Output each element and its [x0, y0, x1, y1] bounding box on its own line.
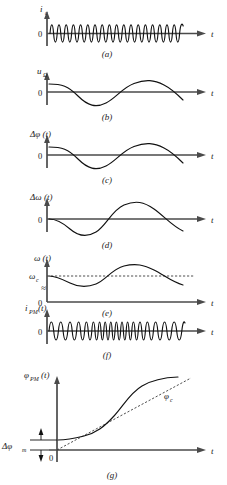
panel-g-delta-phi-upper-arrowhead	[39, 428, 44, 435]
panel-b-modulating-waveform	[49, 81, 183, 106]
panel-g: φ PM (t) Δφ m φ c 0 t (g)	[1, 370, 214, 480]
panel-g-y-arrowhead	[54, 376, 60, 384]
panel-c-y-label: Δφ (t)	[29, 129, 51, 139]
panel-g-y-label-sub: PM	[29, 376, 40, 382]
panel-c-phase-deviation-waveform	[49, 144, 183, 169]
panel-b: u Ω 0 t (b)	[37, 66, 214, 122]
panel-g-phi-c-label: φ	[164, 391, 169, 401]
panel-d-caption: (d)	[102, 240, 113, 250]
panel-c: Δφ (t) 0 t (c)	[29, 129, 214, 185]
panel-g-caption: (g)	[107, 470, 118, 480]
panel-c-origin-label: 0	[38, 151, 42, 161]
panel-e-omega-c-label-sub: c	[36, 277, 39, 283]
panel-b-origin-label: 0	[38, 88, 42, 98]
phase-modulation-figure: i c 0 t (a) u Ω 0 t (b) Δφ (t) 0 t (c)	[0, 0, 227, 485]
panel-d: Δω (t) 0 t (d)	[29, 192, 214, 250]
panel-d-x-arrowhead	[197, 216, 206, 222]
panel-f-y-label: i	[25, 303, 28, 313]
panel-g-x-arrowhead	[197, 447, 206, 453]
panel-f-origin-label: 0	[38, 327, 42, 337]
panel-c-x-arrowhead	[197, 152, 206, 158]
panel-g-delta-phi-lower-arrowhead	[39, 455, 44, 462]
panel-g-pm-phase-curve	[58, 377, 178, 440]
panel-b-caption: (b)	[102, 112, 113, 122]
panel-f-x-label: t	[211, 327, 214, 337]
panel-e-axis-break-icon: ≈	[41, 283, 46, 293]
panel-a-x-label: t	[211, 29, 214, 39]
panel-d-origin-label: 0	[38, 215, 42, 225]
panel-a-y-label: i	[40, 4, 43, 14]
panel-b-y-label: u	[37, 66, 42, 76]
panel-a-y-label-sub: c	[45, 10, 48, 16]
panel-e-caption: (e)	[102, 308, 112, 318]
panel-g-y-label: φ	[24, 370, 29, 380]
panel-a: i c 0 t (a)	[38, 4, 214, 59]
panel-a-origin-label: 0	[38, 29, 42, 39]
panel-g-phi-c-label-sub: c	[170, 397, 173, 403]
panel-f-x-arrowhead	[197, 328, 206, 334]
panel-f-caption: (f)	[103, 350, 112, 360]
panel-g-x-label: t	[211, 446, 214, 456]
panel-f-y-label-tail: (t)	[38, 303, 47, 313]
panel-d-y-label: Δω (t)	[29, 192, 52, 202]
panel-b-x-arrowhead	[197, 89, 206, 95]
panel-d-x-label: t	[211, 215, 214, 225]
panel-e-y-label: ω (t)	[34, 253, 51, 263]
panel-g-phi-c-ramp-line	[57, 378, 191, 450]
panel-e-x-label: t	[211, 298, 214, 308]
panel-f: i PM (t) 0 t (f)	[25, 303, 214, 360]
panel-c-x-label: t	[211, 151, 214, 161]
panel-e-omega-c-label: ω	[29, 271, 35, 281]
panel-e-x-arrowhead	[197, 299, 206, 305]
panel-g-origin-label: 0	[49, 453, 53, 463]
panel-e: ≈ ω (t) ω c 0 t (e)	[29, 253, 214, 318]
panel-b-y-label-sub: Ω	[43, 72, 48, 78]
panel-g-delta-phi-label: Δφ	[1, 441, 12, 451]
panel-b-x-label: t	[211, 88, 214, 98]
panel-a-caption: (a)	[102, 49, 113, 59]
panel-g-y-label-tail: (t)	[41, 370, 50, 380]
panel-c-caption: (c)	[102, 175, 112, 185]
panel-a-x-arrowhead	[197, 30, 206, 36]
panel-g-delta-phi-label-sub: m	[22, 447, 27, 453]
